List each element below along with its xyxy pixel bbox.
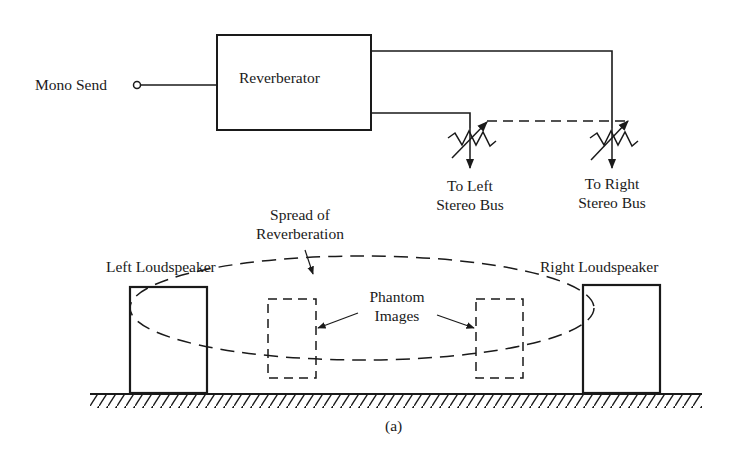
spread-label-line1: Spread of [245,205,355,224]
mono-send-label: Mono Send [35,75,107,94]
right-loudspeaker-label: Right Loudspeaker [540,257,658,276]
phantom-images-label: Phantom Images [352,287,442,325]
right-output-line [371,51,612,128]
reverberator-label: Reverberator [239,68,320,87]
spread-label-line2: Reverberation [245,224,355,243]
spread-pointer-arrow [305,250,313,274]
left-output-label-line1: To Left [415,176,525,195]
left-potentiometer-icon [448,122,496,168]
diagram-canvas [0,0,744,475]
phantom-label-line2: Images [352,306,442,325]
floor-hatching [90,395,702,408]
right-loudspeaker-box [583,285,660,393]
left-phantom-image-box [268,299,316,378]
figure-caption: (a) [385,416,402,435]
left-output-line [371,113,470,128]
left-loudspeaker-label: Left Loudspeaker [106,257,216,276]
phantom-right-pointer-arrow [437,315,474,328]
spread-label: Spread of Reverberation [245,205,355,243]
input-terminal-icon [134,82,141,89]
left-loudspeaker-box [130,287,207,393]
right-output-label: To Right Stereo Bus [557,174,667,212]
left-output-label: To Left Stereo Bus [415,176,525,214]
right-output-label-line2: Stereo Bus [557,193,667,212]
phantom-label-line1: Phantom [352,287,442,306]
right-phantom-image-box [476,299,523,378]
right-potentiometer-icon [590,121,638,168]
right-output-label-line1: To Right [557,174,667,193]
left-output-label-line2: Stereo Bus [415,195,525,214]
